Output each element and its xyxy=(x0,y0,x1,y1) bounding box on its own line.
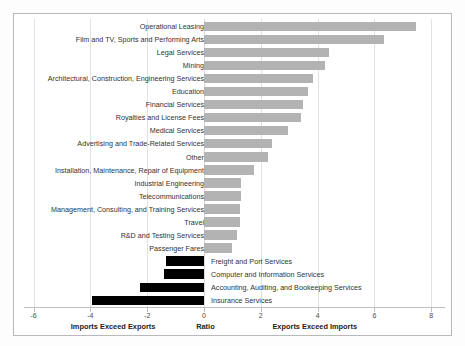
bar xyxy=(204,74,313,84)
bar xyxy=(204,61,325,71)
bar xyxy=(204,35,384,45)
bar-row: Medical Services xyxy=(14,124,453,137)
bar-row: Industrial Engineering xyxy=(14,177,453,190)
bar xyxy=(204,100,303,110)
page-background: -6-4-202468Operational LeasingFilm and T… xyxy=(0,0,465,346)
bar-row: Travel xyxy=(14,216,453,229)
bar xyxy=(204,243,232,253)
category-label: Industrial Engineering xyxy=(134,178,204,189)
bar-row: Passenger Fares xyxy=(14,242,453,255)
category-label: Advertising and Trade-Related Services xyxy=(77,138,204,149)
bar-row: Accounting, Auditing, and Bookeeping Ser… xyxy=(14,281,453,294)
bar-row: Management, Consulting, and Training Ser… xyxy=(14,203,453,216)
x-tick-label: -4 xyxy=(87,312,93,319)
category-label: Mining xyxy=(183,60,204,71)
category-label: Operational Leasing xyxy=(140,21,204,32)
category-label: Film and TV, Sports and Performing Arts xyxy=(76,34,204,45)
bar-row: Royalties and License Fees xyxy=(14,111,453,124)
bar-row: Film and TV, Sports and Performing Arts xyxy=(14,33,453,46)
category-label: Installation, Maintenance, Repair of Equ… xyxy=(55,165,204,176)
bar xyxy=(204,204,240,214)
bar xyxy=(204,126,288,136)
bar-row: R&D and Testing Services xyxy=(14,229,453,242)
category-label: Financial Services xyxy=(146,99,204,110)
bar xyxy=(166,256,204,266)
bar-row: Operational Leasing xyxy=(14,20,453,33)
bar-row: Installation, Maintenance, Repair of Equ… xyxy=(14,164,453,177)
bar xyxy=(204,191,241,201)
category-label: Accounting, Auditing, and Bookeeping Ser… xyxy=(211,282,362,293)
category-label: Medical Services xyxy=(150,125,204,136)
bar xyxy=(204,139,272,149)
bar-row: Other xyxy=(14,151,453,164)
bar-row: Computer and Information Services xyxy=(14,268,453,281)
x-tick-label: 6 xyxy=(372,312,376,319)
chart-frame: -6-4-202468Operational LeasingFilm and T… xyxy=(13,13,452,336)
bar xyxy=(204,165,254,175)
x-tick-label: -2 xyxy=(144,312,150,319)
bar xyxy=(204,87,308,97)
bar xyxy=(92,296,204,306)
bar-row: Legal Services xyxy=(14,46,453,59)
axis-direction-caption: Exports Exceed Imports xyxy=(272,322,357,331)
bar xyxy=(204,48,329,58)
bar-row: Education xyxy=(14,85,453,98)
category-label: Passenger Fares xyxy=(149,243,204,254)
x-tick-label: -6 xyxy=(30,312,36,319)
category-label: Legal Services xyxy=(157,47,204,58)
category-label: Telecommunications xyxy=(139,191,204,202)
category-label: Computer and Information Services xyxy=(211,269,324,280)
category-label: Insurance Services xyxy=(211,295,272,306)
category-label: Education xyxy=(172,86,204,97)
bar xyxy=(204,178,241,188)
x-tick-label: 2 xyxy=(259,312,263,319)
category-label: Architectural, Construction, Engineering… xyxy=(48,73,204,84)
bar-row: Freight and Port Services xyxy=(14,255,453,268)
x-tick-label: 8 xyxy=(429,312,433,319)
bar xyxy=(204,113,301,123)
bar xyxy=(164,269,204,279)
bar xyxy=(204,230,237,240)
bar-row: Insurance Services xyxy=(14,294,453,307)
x-axis-title: Ratio xyxy=(196,322,214,331)
category-label: Freight and Port Services xyxy=(211,256,292,267)
bar-row: Advertising and Trade-Related Services xyxy=(14,137,453,150)
bar-row: Mining xyxy=(14,59,453,72)
category-label: R&D and Testing Services xyxy=(121,230,204,241)
category-label: Management, Consulting, and Training Ser… xyxy=(51,204,204,215)
bar-row: Financial Services xyxy=(14,98,453,111)
category-label: Other xyxy=(186,152,204,163)
bar-row: Architectural, Construction, Engineering… xyxy=(14,72,453,85)
axis-direction-caption: Imports Exceed Exports xyxy=(71,322,156,331)
bar xyxy=(204,22,416,32)
category-label: Travel xyxy=(184,217,204,228)
chart-plot-area: -6-4-202468Operational LeasingFilm and T… xyxy=(14,14,453,337)
bar xyxy=(204,152,268,162)
category-label: Royalties and License Fees xyxy=(116,112,204,123)
bar xyxy=(140,283,204,293)
bar xyxy=(204,217,240,227)
x-tick-label: 0 xyxy=(202,312,206,319)
x-tick-label: 4 xyxy=(316,312,320,319)
bar-row: Telecommunications xyxy=(14,190,453,203)
